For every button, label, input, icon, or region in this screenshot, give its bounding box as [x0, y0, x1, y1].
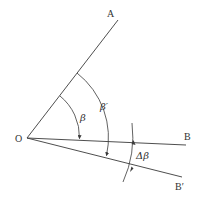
angle-diagram: O A B B′ β β′ Δβ	[0, 0, 204, 202]
arrowhead-delta-beta-bottom	[130, 167, 134, 173]
diagram-svg: O A B B′ β β′ Δβ	[0, 0, 204, 202]
ray-oa	[27, 20, 118, 138]
label-delta-beta: Δβ	[135, 150, 149, 161]
label-beta: β	[79, 112, 86, 123]
arc-delta-beta	[123, 123, 133, 182]
label-b: B	[184, 131, 191, 142]
arc-beta	[60, 96, 80, 139]
label-b-prime: B′	[175, 181, 184, 192]
label-o: O	[15, 133, 22, 144]
label-a: A	[107, 8, 115, 19]
label-beta-prime: β′	[99, 101, 109, 112]
